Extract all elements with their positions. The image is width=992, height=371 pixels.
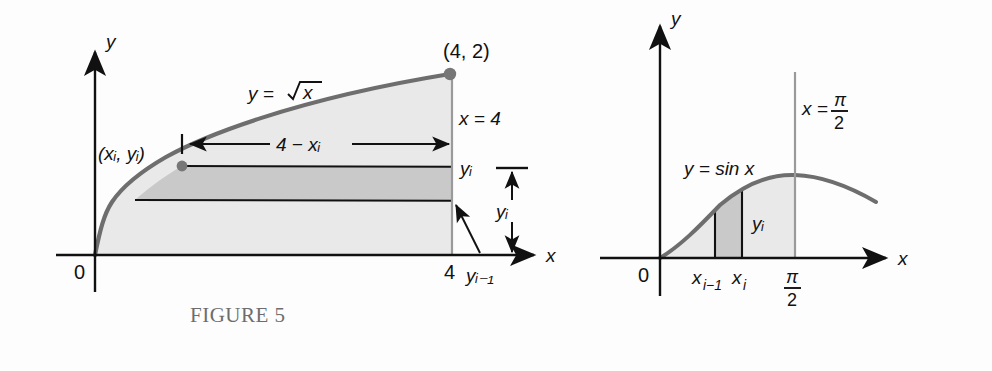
yi-right-label: yᵢ bbox=[458, 158, 473, 179]
vertical-line-label-group: x = π 2 bbox=[801, 90, 848, 133]
yi-bracket-label: yᵢ bbox=[494, 201, 509, 222]
tick-label-xi-minus1: x i−1 bbox=[691, 267, 722, 293]
tick-label-xi: x i bbox=[731, 267, 747, 293]
origin-label: 0 bbox=[74, 261, 85, 283]
x-axis-label: x bbox=[545, 245, 557, 266]
strip-height-label: yᵢ bbox=[750, 213, 765, 234]
width-label: 4 − xᵢ bbox=[276, 134, 321, 155]
x-tick-4-label: 4 bbox=[444, 261, 455, 283]
curve-label: y = sin x bbox=[682, 158, 756, 179]
x-axis-label: x bbox=[897, 248, 909, 269]
figure-5-caption: FIGURE 5 bbox=[190, 303, 286, 328]
figure-6-svg: y x 0 y = sin x yᵢ x = π 2 x i−1 x i bbox=[580, 0, 992, 320]
vertical-line-denominator: 2 bbox=[834, 113, 844, 133]
tick-pi-numerator: π bbox=[786, 267, 799, 287]
sample-point-label: (xᵢ, yᵢ) bbox=[98, 143, 145, 164]
endpoint-dot bbox=[444, 68, 456, 80]
y-axis-label: y bbox=[669, 8, 682, 29]
figure-6: y x 0 y = sin x yᵢ x = π 2 x i−1 x i bbox=[580, 0, 992, 371]
curve-label: y = bbox=[246, 83, 274, 104]
curve-label-group: y = x bbox=[246, 82, 322, 104]
figure-5-svg: y x 0 4 (4, 2) y = x x = 4 (xᵢ, yᵢ) 4 − … bbox=[0, 0, 580, 300]
vertical-line-label-prefix: x = bbox=[801, 98, 828, 119]
strip-top-line bbox=[182, 166, 452, 167]
radical-operand: x bbox=[302, 82, 314, 103]
tick-xi-sub: i bbox=[743, 277, 747, 293]
vertical-line-label: x = 4 bbox=[458, 108, 501, 129]
y-axis-label: y bbox=[104, 31, 117, 52]
tick-xi-minus1-sub: i−1 bbox=[703, 277, 722, 293]
tick-pi-denominator: 2 bbox=[787, 290, 797, 310]
yi-minus1-pointer-arrow bbox=[456, 205, 480, 253]
tick-xi-minus1-base: x bbox=[691, 267, 703, 288]
tick-label-pi-over-2: π 2 bbox=[784, 267, 801, 310]
origin-label: 0 bbox=[638, 264, 649, 286]
figure-5: y x 0 4 (4, 2) y = x x = 4 (xᵢ, yᵢ) 4 − … bbox=[0, 0, 580, 371]
yi-minus1-label: yᵢ₋₁ bbox=[464, 265, 494, 286]
figure-page: y x 0 4 (4, 2) y = x x = 4 (xᵢ, yᵢ) 4 − … bbox=[0, 0, 992, 371]
tick-xi-base: x bbox=[731, 267, 743, 288]
endpoint-label: (4, 2) bbox=[443, 40, 490, 62]
sample-point-dot bbox=[177, 161, 188, 172]
vertical-line-numerator: π bbox=[834, 90, 847, 110]
strip-bottom-line bbox=[135, 200, 452, 201]
